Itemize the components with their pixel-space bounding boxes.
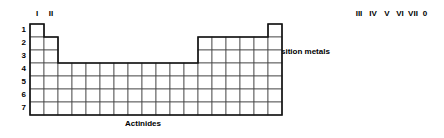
grid-cell bbox=[268, 37, 282, 50]
grid-cell bbox=[212, 50, 226, 63]
grid-cell bbox=[128, 102, 142, 115]
grid-cell bbox=[198, 63, 212, 76]
grid-cell bbox=[268, 50, 282, 63]
grid-cell bbox=[72, 102, 86, 115]
grid-cell bbox=[156, 63, 170, 76]
grid-cell bbox=[212, 102, 226, 115]
grid-cell bbox=[254, 50, 268, 63]
grid-cell bbox=[114, 63, 128, 76]
grid-cell bbox=[198, 50, 212, 63]
grid-cell bbox=[128, 76, 142, 89]
grid-cell bbox=[240, 50, 254, 63]
grid-cell bbox=[184, 63, 198, 76]
grid-cell bbox=[156, 89, 170, 102]
grid-cell bbox=[226, 76, 240, 89]
grid-cell bbox=[44, 89, 58, 102]
grid-cell bbox=[72, 76, 86, 89]
grid-cell bbox=[30, 76, 44, 89]
grid-cell bbox=[240, 76, 254, 89]
grid-cell bbox=[198, 89, 212, 102]
grid-cell bbox=[212, 76, 226, 89]
grid-cell bbox=[30, 89, 44, 102]
grid-cell bbox=[268, 76, 282, 89]
grid-cell bbox=[240, 89, 254, 102]
grid-cell bbox=[198, 76, 212, 89]
grid-cell bbox=[240, 37, 254, 50]
grid-cell bbox=[86, 89, 100, 102]
grid-cell bbox=[198, 37, 212, 50]
grid-cell bbox=[58, 76, 72, 89]
grid-cell bbox=[254, 89, 268, 102]
grid-cell bbox=[100, 76, 114, 89]
grid-cell bbox=[170, 89, 184, 102]
grid-cell bbox=[44, 50, 58, 63]
grid-cell bbox=[86, 102, 100, 115]
grid-cell bbox=[170, 102, 184, 115]
grid-cell bbox=[142, 76, 156, 89]
grid-cell bbox=[184, 102, 198, 115]
grid-cell bbox=[268, 63, 282, 76]
grid-cell bbox=[212, 63, 226, 76]
grid-cell bbox=[156, 76, 170, 89]
grid-cell bbox=[240, 63, 254, 76]
grid-cell bbox=[184, 89, 198, 102]
grid-cell bbox=[156, 102, 170, 115]
grid-cell bbox=[72, 89, 86, 102]
grid-cell bbox=[128, 89, 142, 102]
grid-cell bbox=[142, 63, 156, 76]
grid-cell bbox=[30, 24, 44, 37]
grid-cell bbox=[226, 102, 240, 115]
grid-cell bbox=[198, 102, 212, 115]
grid-cell bbox=[30, 37, 44, 50]
grid-cell bbox=[212, 37, 226, 50]
grid-cell bbox=[268, 89, 282, 102]
grid-cell bbox=[114, 89, 128, 102]
grid-cell bbox=[44, 102, 58, 115]
grid-cell bbox=[254, 37, 268, 50]
grid-cell bbox=[72, 63, 86, 76]
grid-cell bbox=[268, 24, 282, 37]
grid-cell bbox=[226, 37, 240, 50]
periodic-table-figure: I II III IV V VI VII 0 1 2 3 4 5 6 7 Tra… bbox=[0, 0, 444, 138]
grid-cell bbox=[254, 76, 268, 89]
grid-cell bbox=[170, 76, 184, 89]
grid-cell bbox=[142, 102, 156, 115]
grid-cell bbox=[142, 89, 156, 102]
grid-cell bbox=[240, 102, 254, 115]
grid-cell bbox=[30, 63, 44, 76]
grid-cell bbox=[114, 102, 128, 115]
grid-cell bbox=[100, 102, 114, 115]
grid-cell bbox=[30, 102, 44, 115]
grid-cell bbox=[100, 89, 114, 102]
grid-cell bbox=[86, 76, 100, 89]
grid-cell bbox=[254, 102, 268, 115]
grid-cell bbox=[268, 102, 282, 115]
grid-cell bbox=[58, 89, 72, 102]
grid-cell bbox=[44, 76, 58, 89]
grid-cell bbox=[30, 50, 44, 63]
grid-cell bbox=[44, 63, 58, 76]
grid-cell bbox=[100, 63, 114, 76]
grid-cell bbox=[58, 63, 72, 76]
grid-cell bbox=[226, 50, 240, 63]
grid-cell bbox=[58, 102, 72, 115]
grid-cell bbox=[212, 89, 226, 102]
grid-cell bbox=[226, 89, 240, 102]
grid-cell bbox=[254, 63, 268, 76]
grid-cell bbox=[226, 63, 240, 76]
grid-cell bbox=[44, 37, 58, 50]
grid-cell bbox=[184, 76, 198, 89]
grid-cell bbox=[114, 76, 128, 89]
grid-cell bbox=[170, 63, 184, 76]
grid-cell bbox=[128, 63, 142, 76]
grid-cell bbox=[86, 63, 100, 76]
periodic-table-grid bbox=[0, 0, 444, 138]
